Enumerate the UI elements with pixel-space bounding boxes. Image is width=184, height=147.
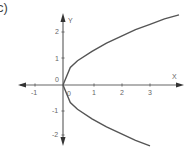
x-tick-label: 1 xyxy=(92,89,96,96)
parabola-chart: -1 0 1 2 3 X 2 1 0 -1 -2 Y xyxy=(0,0,184,147)
x-tick-label: 2 xyxy=(120,89,124,96)
y-axis-arrow-down-icon xyxy=(61,137,66,146)
y-tick-label: 1 xyxy=(55,55,59,62)
y-tick-label: -1 xyxy=(52,107,58,114)
x-axis-label: X xyxy=(172,73,177,80)
y-axis-arrow-up-icon xyxy=(61,13,66,22)
x-tick-label: 3 xyxy=(148,89,152,96)
x-tick-label: -1 xyxy=(31,89,37,96)
x-axis-arrow-right-icon xyxy=(176,83,184,88)
curve-lower-branch xyxy=(63,85,150,146)
curve-upper-branch xyxy=(63,15,179,85)
y-axis-label: Y xyxy=(68,17,73,24)
y-tick-label: -2 xyxy=(52,131,58,138)
y-tick-label: 2 xyxy=(55,28,59,35)
x-axis-arrow-left-icon xyxy=(18,83,26,88)
origin-label: 0 xyxy=(55,76,59,83)
